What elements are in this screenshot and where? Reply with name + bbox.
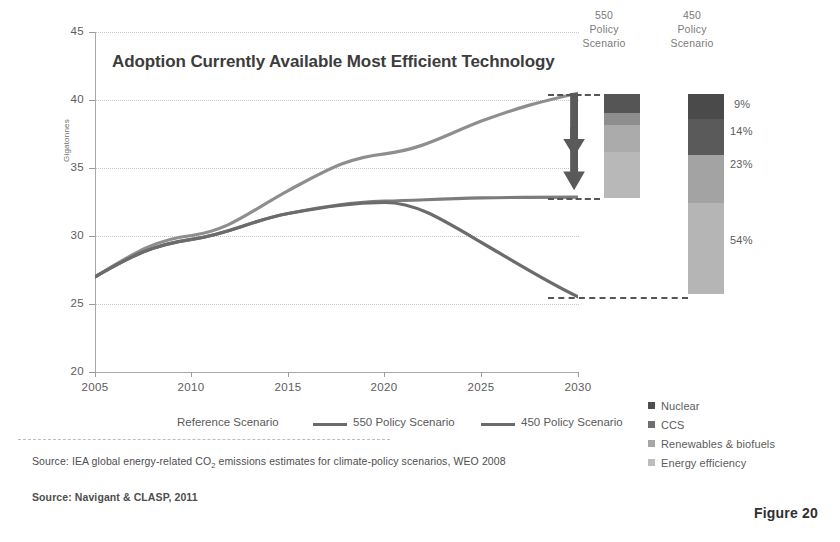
- source-primary: Source: IEA global energy-related CO2 em…: [32, 455, 506, 470]
- x-tick-2005: [95, 372, 96, 377]
- dash-rule-source: [18, 439, 390, 440]
- bar-heading-550-line1: 550: [562, 8, 646, 22]
- series-legend: Reference Scenario 550 Policy Scenario 4…: [95, 415, 615, 435]
- bar-450-segment-ccs: [688, 119, 724, 155]
- x-tick-label-2005: 2005: [65, 381, 125, 393]
- stack-legend: Nuclear CCS Renewables & biofuels Energy…: [648, 396, 775, 472]
- y-tick-label-25: 25: [50, 297, 84, 309]
- series-legend-label-reference: Reference Scenario: [177, 416, 279, 428]
- dash-leader-450: [548, 297, 688, 299]
- y-tick-label-30: 30: [50, 229, 84, 241]
- y-tick-label-35: 35: [50, 161, 84, 173]
- x-tick-2030: [578, 372, 579, 377]
- x-tick-2025: [481, 372, 482, 377]
- bar-550-segment-ccs: [604, 113, 640, 126]
- stack-legend-row-nuclear: Nuclear: [648, 396, 775, 415]
- source-primary-tail: emissions estimates for climate-policy s…: [216, 455, 506, 467]
- stack-legend-label-energy-efficiency: Energy efficiency: [661, 457, 746, 469]
- x-axis-line: [95, 372, 578, 373]
- x-tick-2015: [288, 372, 289, 377]
- figure-20-root: Gigatonnes 45 40 35 30 25 20 2005 2010 2…: [0, 0, 840, 542]
- bar-heading-550: 550 Policy Scenario: [562, 8, 646, 50]
- x-tick-2010: [191, 372, 192, 377]
- bar-heading-450-line1: 450: [650, 8, 734, 22]
- bar-550-segment-energy-efficiency: [604, 152, 640, 198]
- x-tick-label-2010: 2010: [161, 381, 221, 393]
- stack-legend-row-renewables: Renewables & biofuels: [648, 434, 775, 453]
- bar-450-segment-renewables: [688, 155, 724, 203]
- source-primary-head: Source: IEA global energy-related CO: [32, 455, 211, 467]
- y-tick-label-40: 40: [50, 93, 84, 105]
- stacked-bar-550: [604, 94, 640, 198]
- x-tick-label-2030: 2030: [548, 381, 608, 393]
- stack-legend-label-ccs: CCS: [661, 419, 685, 431]
- x-tick-label-2020: 2020: [354, 381, 414, 393]
- square-chip-icon-ccs: [648, 421, 655, 428]
- series-legend-swatch-550: [313, 423, 347, 426]
- stack-legend-label-nuclear: Nuclear: [661, 400, 700, 412]
- y-tick-label-20: 20: [50, 365, 84, 377]
- source-secondary: Source: Navigant & CLASP, 2011: [32, 491, 198, 503]
- stack-legend-row-energy-efficiency: Energy efficiency: [648, 453, 775, 472]
- square-chip-icon-renewables: [648, 440, 655, 447]
- pct-label-efficiency-450: 54%: [730, 234, 753, 246]
- reduction-arrow-450: [563, 127, 585, 190]
- bar-heading-550-line3: Scenario: [562, 36, 646, 50]
- series-legend-label-550: 550 Policy Scenario: [353, 416, 455, 428]
- square-chip-icon-nuclear: [648, 402, 655, 409]
- series-legend-swatch-reference: [135, 423, 169, 426]
- square-chip-icon-energy-efficiency: [648, 459, 655, 466]
- x-tick-2020: [384, 372, 385, 377]
- line-550-policy-scenario: [95, 197, 578, 277]
- reduction-arrows-group: [548, 88, 608, 198]
- line-reference-scenario: [95, 93, 578, 277]
- stack-legend-label-renewables: Renewables & biofuels: [661, 438, 775, 450]
- bar-heading-450-line3: Scenario: [650, 36, 734, 50]
- pct-label-ccs-450: 14%: [730, 125, 753, 137]
- bar-heading-450: 450 Policy Scenario: [650, 8, 734, 50]
- x-tick-label-2015: 2015: [258, 381, 318, 393]
- y-axis-label: Gigatonnes: [62, 119, 71, 162]
- pct-label-nuclear-450: 9%: [734, 98, 750, 110]
- bar-heading-550-line2: Policy: [562, 22, 646, 36]
- figure-label: Figure 20: [754, 505, 818, 521]
- stack-legend-row-ccs: CCS: [648, 415, 775, 434]
- bar-450-segment-nuclear: [688, 94, 724, 119]
- series-legend-label-450: 450 Policy Scenario: [521, 416, 623, 428]
- bar-heading-450-line2: Policy: [650, 22, 734, 36]
- pct-label-renewables-450: 23%: [730, 158, 753, 170]
- line-series-group: [95, 32, 578, 372]
- x-tick-label-2025: 2025: [451, 381, 511, 393]
- bar-550-segment-renewables: [604, 125, 640, 152]
- bar-550-segment-nuclear: [604, 94, 640, 113]
- bar-450-segment-energy-efficiency: [688, 203, 724, 294]
- y-tick-label-45: 45: [50, 25, 84, 37]
- series-legend-swatch-450: [481, 423, 515, 426]
- line-450-policy-scenario: [95, 203, 578, 297]
- stacked-bar-450: [688, 94, 724, 294]
